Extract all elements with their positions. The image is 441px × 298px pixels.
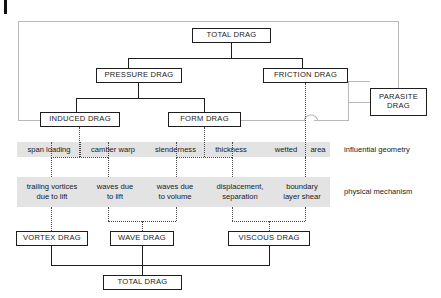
total-drag-split-line bbox=[128, 58, 303, 59]
geometry-cell-wetted: wetted bbox=[268, 142, 304, 157]
vortex-drag-dotted-stem bbox=[51, 207, 52, 231]
vortex-drag-down-stem bbox=[51, 246, 52, 266]
box-pressure-drag[interactable]: PRESSURE DRAG bbox=[96, 68, 182, 83]
geometry-cell-slenderness: slenderness bbox=[148, 142, 203, 157]
form-drag-dotted-bracket bbox=[176, 157, 232, 158]
bottom-collector-line bbox=[51, 265, 270, 266]
mechanism-cell-waves-due-to-lift: waves due to lift bbox=[89, 177, 141, 207]
box-form-drag[interactable]: FORM DRAG bbox=[168, 112, 241, 127]
box-wave-drag[interactable]: WAVE DRAG bbox=[110, 231, 174, 246]
boundary-layer-dotted-drop bbox=[305, 207, 306, 221]
form-to-parasite-line-a bbox=[241, 120, 305, 121]
mechanism-cell-displacement-separation: displacement, separation bbox=[208, 177, 272, 207]
mech-riser-waves-due-to-lift bbox=[108, 157, 109, 177]
viscous-drag-down-stem bbox=[269, 246, 270, 266]
parasite-loop-induced-line bbox=[18, 120, 40, 121]
influential-geometry-label: influential geometry bbox=[344, 142, 410, 157]
waves-lift-dotted-drop bbox=[108, 207, 109, 221]
mechanism-cell-boundary-layer-shear: boundary layer shear bbox=[274, 177, 330, 207]
box-induced-drag[interactable]: INDUCED DRAG bbox=[40, 112, 120, 127]
parasite-loop-right-line bbox=[398, 21, 399, 88]
box-total-drag-top[interactable]: TOTAL DRAG bbox=[192, 28, 271, 43]
box-total-drag-bottom[interactable]: TOTAL DRAG bbox=[103, 275, 182, 290]
parasite-left-entry-line bbox=[348, 102, 370, 103]
wave-drag-dotted-stem bbox=[142, 221, 143, 231]
pressure-drag-split-line bbox=[76, 98, 205, 99]
mechanism-cell-trailing-vortices: trailing vortices due to lift bbox=[18, 177, 86, 207]
pressure-drag-stem bbox=[138, 83, 139, 99]
drag-breakdown-diagram: TOTAL DRAG PRESSURE DRAG FRICTION DRAG P… bbox=[0, 0, 441, 298]
total-drag-stem bbox=[231, 43, 232, 59]
box-viscous-drag[interactable]: VISCOUS DRAG bbox=[228, 231, 310, 246]
mech-riser-waves-due-to-volume bbox=[176, 157, 177, 177]
wave-drag-down-stem bbox=[142, 246, 143, 276]
geometry-sep-1 bbox=[80, 142, 81, 157]
geometry-cell-area: area bbox=[307, 142, 329, 157]
induced-drag-dotted-bracket bbox=[51, 157, 108, 158]
friction-to-parasite-vline bbox=[348, 81, 349, 103]
friction-to-parasite-line bbox=[348, 81, 370, 82]
parasite-loop-left-line bbox=[18, 21, 19, 121]
viscous-drag-dotted-stem bbox=[269, 221, 270, 231]
box-vortex-drag[interactable]: VORTEX DRAG bbox=[16, 231, 88, 246]
box-friction-drag[interactable]: FRICTION DRAG bbox=[263, 68, 348, 83]
mech-riser-boundary-layer bbox=[305, 157, 306, 177]
geometry-cell-camber-warp: camber warp bbox=[82, 142, 144, 157]
form-to-parasite-line-b bbox=[314, 120, 348, 121]
mech-riser-displacement bbox=[232, 157, 233, 177]
geometry-cell-thickness: thickness bbox=[207, 142, 255, 157]
box-parasite-drag[interactable]: PARASITE DRAG bbox=[370, 88, 427, 116]
geometry-cell-span-loading: span loading bbox=[20, 142, 78, 157]
geometry-sep-2 bbox=[204, 142, 205, 157]
form-to-parasite-vline bbox=[348, 103, 349, 121]
mechanism-cell-waves-due-to-volume: waves due to volume bbox=[147, 177, 203, 207]
geometry-sep-3 bbox=[305, 142, 306, 157]
induced-drag-riser bbox=[76, 98, 77, 112]
displacement-dotted-drop bbox=[232, 207, 233, 221]
physical-mechanism-label: physical mechanism bbox=[344, 177, 412, 207]
waves-volume-dotted-drop bbox=[176, 207, 177, 221]
form-drag-riser bbox=[204, 98, 205, 112]
parasite-drag-label-line2: DRAG bbox=[387, 102, 410, 111]
mech-riser-trailing-vortices bbox=[51, 157, 52, 177]
line-hop-arc-icon bbox=[304, 113, 318, 123]
page-edge-mark bbox=[4, 0, 7, 14]
parasite-loop-top-line bbox=[18, 21, 399, 22]
